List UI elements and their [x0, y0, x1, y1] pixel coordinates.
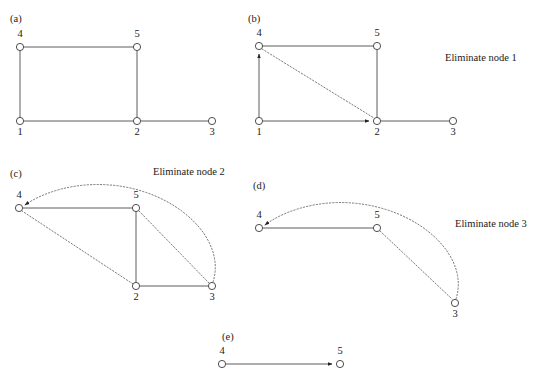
panel-e-label: (e)	[222, 331, 234, 343]
panel-d-edges	[263, 203, 458, 299]
node-label-4: 4	[16, 189, 22, 200]
node-label-1: 1	[17, 126, 22, 137]
node-4	[255, 224, 262, 231]
panel-b-node-labels: 4 5 1 2 3	[256, 27, 455, 137]
panel-c-edges	[22, 185, 215, 286]
node-label-5: 5	[133, 189, 138, 200]
node-3	[451, 299, 458, 306]
node-2	[373, 117, 380, 124]
node-label-1: 1	[256, 126, 261, 137]
node-label-3: 3	[452, 308, 457, 319]
edge-5-3-dotted	[139, 211, 209, 283]
diagram-canvas: (a) 4 5 1 2 3	[0, 0, 545, 381]
node-1	[255, 117, 262, 124]
node-label-5: 5	[337, 345, 342, 356]
panel-c-node-labels: 4 5 2 3	[16, 189, 214, 302]
node-label-4: 4	[256, 209, 262, 220]
panel-b-label: (b)	[248, 13, 261, 25]
node-3	[449, 117, 456, 124]
edge-4-2-dotted	[262, 49, 374, 118]
panel-d-node-labels: 4 5 3	[256, 209, 457, 319]
panel-a-label: (a)	[10, 13, 22, 25]
panel-b-edges	[259, 46, 449, 121]
panel-d-nodes	[255, 224, 458, 306]
node-label-3: 3	[209, 291, 214, 302]
panel-e-node-labels: 4 5	[219, 345, 342, 356]
node-label-2: 2	[134, 126, 139, 137]
panel-a-nodes	[16, 43, 215, 124]
node-4	[218, 360, 225, 367]
node-2	[133, 117, 140, 124]
edge-3-4-dotted-arc	[265, 203, 458, 299]
node-4	[255, 42, 262, 49]
node-label-4: 4	[219, 345, 225, 356]
panel-e: (e) 4 5	[218, 331, 343, 368]
panel-d: (d) Eliminate node 3 4 5 3	[253, 180, 527, 319]
node-2	[132, 282, 139, 289]
panel-b-nodes	[255, 42, 456, 124]
panel-a-edges	[20, 47, 208, 121]
node-label-2: 2	[374, 126, 379, 137]
edge-5-3-dotted	[380, 231, 452, 299]
panel-c: (c) Eliminate node 2 4 5 2 3	[10, 166, 225, 302]
node-4	[16, 43, 23, 50]
panel-d-caption: Eliminate node 3	[455, 218, 527, 229]
node-3	[208, 117, 215, 124]
node-label-3: 3	[450, 126, 455, 137]
node-5	[133, 43, 140, 50]
panel-c-label: (c)	[10, 168, 22, 180]
node-4	[15, 204, 22, 211]
figure-root: (a) 4 5 1 2 3	[0, 0, 545, 381]
node-5	[132, 204, 139, 211]
panel-b: (b) Eliminate node 1 4 5 1	[248, 13, 517, 137]
node-3	[208, 282, 215, 289]
node-label-5: 5	[374, 209, 379, 220]
panel-d-label: (d)	[253, 180, 266, 192]
node-label-5: 5	[374, 27, 379, 38]
node-5	[373, 224, 380, 231]
node-label-3: 3	[209, 126, 214, 137]
node-label-4: 4	[17, 28, 23, 39]
node-1	[16, 117, 23, 124]
edge-3-4-dotted-arc	[25, 185, 215, 282]
panel-a: (a) 4 5 1 2 3	[10, 13, 216, 137]
panel-b-caption: Eliminate node 1	[445, 52, 517, 63]
node-label-4: 4	[256, 27, 262, 38]
panel-c-caption: Eliminate node 2	[153, 166, 225, 177]
edge-2-4-dotted	[22, 211, 133, 284]
node-5	[373, 42, 380, 49]
node-5	[336, 360, 343, 367]
panel-c-nodes	[15, 204, 215, 289]
node-label-2: 2	[133, 291, 138, 302]
node-label-5: 5	[134, 28, 139, 39]
